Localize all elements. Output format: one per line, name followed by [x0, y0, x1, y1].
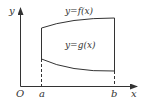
y-axis-label: y	[8, 5, 15, 16]
curve-g-label: y=g(x)	[64, 40, 96, 50]
diagram-canvas: y x O a b y=f(x) y=g(x)	[0, 0, 146, 111]
curve-f	[42, 18, 115, 28]
point-a-label: a	[39, 88, 45, 99]
curve-g	[42, 59, 115, 71]
x-axis-label: x	[131, 88, 137, 99]
point-b-label: b	[111, 88, 117, 99]
origin-label: O	[16, 88, 24, 99]
curve-f-label: y=f(x)	[64, 6, 94, 16]
